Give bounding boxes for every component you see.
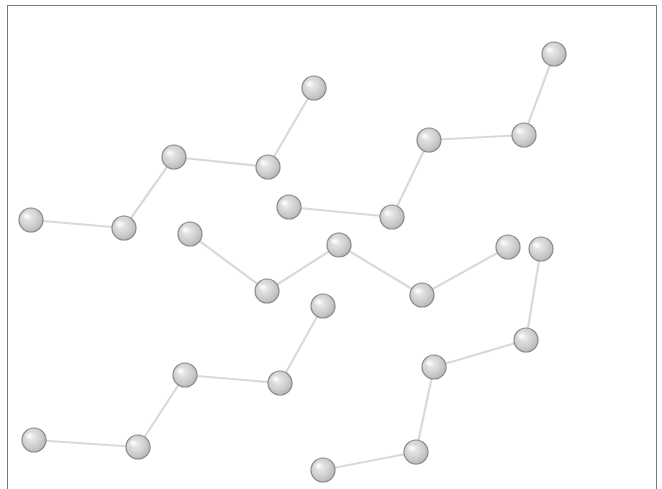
nodes-layer (19, 42, 566, 482)
node-sphere-icon (19, 208, 43, 232)
node-sphere-icon (277, 195, 301, 219)
node-sphere-icon (514, 328, 538, 352)
edge (429, 135, 524, 140)
node-sphere-icon (173, 363, 197, 387)
node-sphere-icon (255, 279, 279, 303)
edge (339, 245, 422, 295)
node-sphere-icon (512, 123, 536, 147)
edge (31, 220, 124, 228)
node-sphere-icon (126, 435, 150, 459)
edge (422, 247, 508, 295)
node-sphere-icon (496, 235, 520, 259)
node-sphere-icon (178, 222, 202, 246)
node-sphere-icon (112, 216, 136, 240)
node-sphere-icon (410, 283, 434, 307)
edge (268, 88, 314, 167)
node-sphere-icon (311, 458, 335, 482)
node-sphere-icon (162, 145, 186, 169)
edge (185, 375, 280, 383)
node-sphere-icon (22, 428, 46, 452)
edge (416, 367, 434, 452)
node-sphere-icon (404, 440, 428, 464)
node-sphere-icon (327, 233, 351, 257)
edge (434, 340, 526, 367)
edge (524, 54, 554, 135)
edge (267, 245, 339, 291)
node-sphere-icon (542, 42, 566, 66)
edges-layer (31, 54, 554, 470)
edge (526, 249, 541, 340)
edge (174, 157, 268, 167)
node-sphere-icon (529, 237, 553, 261)
node-sphere-icon (380, 205, 404, 229)
edge (392, 140, 429, 217)
node-sphere-icon (268, 371, 292, 395)
edge (323, 452, 416, 470)
edge (280, 306, 323, 383)
edge (289, 207, 392, 217)
node-sphere-icon (422, 355, 446, 379)
edge (190, 234, 267, 291)
edge (138, 375, 185, 447)
node-sphere-icon (302, 76, 326, 100)
edge (124, 157, 174, 228)
node-sphere-icon (311, 294, 335, 318)
edge (34, 440, 138, 447)
node-link-diagram (0, 0, 662, 489)
node-sphere-icon (256, 155, 280, 179)
node-sphere-icon (417, 128, 441, 152)
